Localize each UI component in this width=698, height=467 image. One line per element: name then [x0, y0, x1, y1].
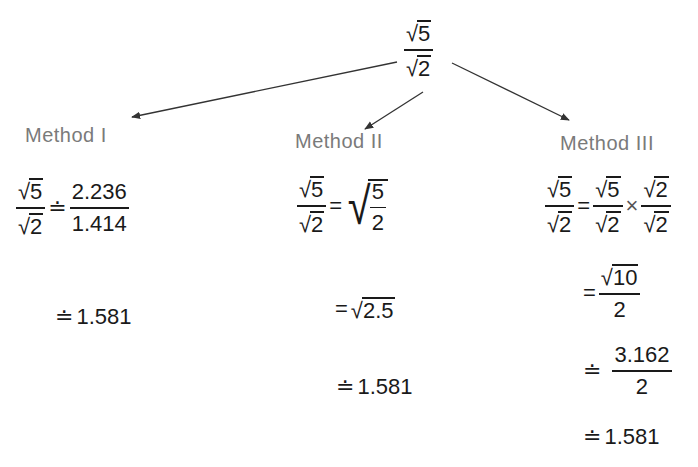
arrow-to-method-2	[365, 92, 423, 129]
method-3-step-2: = √10 2	[580, 264, 640, 321]
method-1-step-1: √5 √2 ≐ 2.236 1.414	[16, 178, 129, 238]
method-1-step-2: ≐ 1.581	[52, 304, 132, 330]
root-expression: √5 √2	[404, 20, 433, 80]
method-2-step-1: √5 √2 = √ 5 2	[297, 176, 388, 236]
method-2-step-3: ≐ 1.581	[333, 374, 413, 400]
method-3-step-1: √5 √2 = √5 √2 × √2 √2	[545, 176, 671, 236]
method-1-label: Method I	[25, 124, 107, 147]
method-3-step-3: ≐ 3.162 2	[580, 344, 672, 398]
method-3-step-4: ≐ 1.581	[580, 424, 660, 450]
method-2-label: Method II	[295, 130, 383, 153]
arrow-to-method-3	[452, 63, 569, 120]
arrow-to-method-1	[132, 62, 397, 117]
method-3-label: Method III	[560, 132, 654, 155]
method-2-step-2: = √2.5	[332, 296, 395, 322]
